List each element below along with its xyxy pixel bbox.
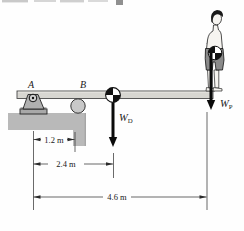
- diving-board-diagram: A B WP WD: [0, 0, 244, 231]
- svg-text:2.4 m: 2.4 m: [56, 159, 76, 169]
- person-torso: [207, 25, 223, 49]
- board-weight-label: WD: [119, 112, 133, 124]
- dimension-4-6: 4.6 m: [34, 192, 207, 202]
- person-leg-front: [214, 70, 219, 88]
- roller-label: B: [80, 79, 86, 90]
- dimension-2-4: 2.4 m: [34, 159, 114, 169]
- center-of-gravity-icon: [106, 88, 121, 103]
- figure-canvas: A B WP WD: [0, 0, 244, 231]
- roller-support: [71, 99, 85, 113]
- cropped-text-fragment: [2, 0, 123, 5]
- svg-text:1.2 m: 1.2 m: [44, 135, 64, 145]
- person-weight-label: WP: [220, 98, 233, 110]
- pin-label: A: [27, 79, 35, 90]
- dimension-1-2: 1.2 m: [34, 135, 75, 145]
- svg-text:4.6 m: 4.6 m: [107, 192, 127, 202]
- person-foot-front: [213, 88, 222, 92]
